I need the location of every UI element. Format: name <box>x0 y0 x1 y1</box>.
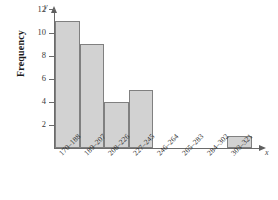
histogram-chart: y x Frequency 24681012 170–188189–207208… <box>0 0 278 200</box>
x-axis-labels: 170–188189–207208–226227–245246–264265–2… <box>0 0 278 200</box>
